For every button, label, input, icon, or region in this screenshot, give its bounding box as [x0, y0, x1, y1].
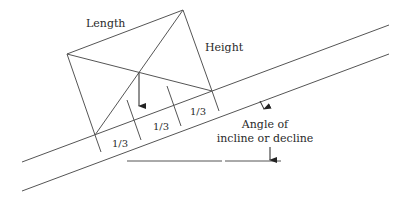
- box-outline: [67, 10, 219, 152]
- incline-lower-line: [22, 54, 389, 191]
- third-label-1: 1/3: [112, 138, 128, 149]
- third-label-3: 1/3: [190, 106, 206, 117]
- third-label-2: 1/3: [153, 121, 169, 132]
- incline-load-diagram: Length Height 1/3 1/3 1/3 Angle of incli…: [0, 0, 405, 203]
- third-tick-2: [167, 86, 181, 126]
- length-label: Length: [86, 17, 125, 30]
- angle-label-line2: incline or decline: [217, 132, 314, 145]
- angle-label-line1: Angle of: [241, 118, 289, 131]
- angle-arrow: [260, 101, 264, 109]
- height-label: Height: [205, 41, 244, 54]
